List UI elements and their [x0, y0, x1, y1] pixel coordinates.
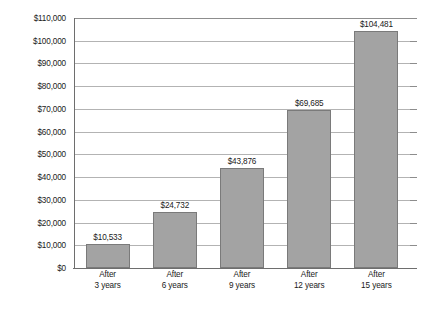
y-axis-tick-mark — [410, 63, 417, 64]
x-axis-line — [73, 268, 417, 269]
plot-area: $10,533$24,732$43,876$69,685$104,481 — [74, 18, 410, 268]
y-tick-label: $10,000 — [0, 241, 66, 250]
bar-value-label: $24,732 — [161, 201, 190, 210]
x-tick-label-line: 15 years — [343, 281, 410, 292]
y-axis-tick-mark — [410, 109, 417, 110]
y-axis-tick-mark — [410, 245, 417, 246]
y-axis-tick-mark — [410, 41, 417, 42]
y-tick-label: $50,000 — [0, 150, 66, 159]
x-tick-label-line: After — [141, 270, 208, 281]
y-tick-label: $80,000 — [0, 82, 66, 91]
x-tick-label-line: 9 years — [208, 281, 275, 292]
y-tick-label: $60,000 — [0, 127, 66, 136]
x-tick-label: After9 years — [208, 270, 275, 291]
x-tick-label-line: 6 years — [141, 281, 208, 292]
y-axis-tick-mark — [410, 132, 417, 133]
y-axis-tick-mark — [410, 223, 417, 224]
y-axis-tick-mark — [410, 154, 417, 155]
x-tick-label-line: 12 years — [276, 281, 343, 292]
bar[interactable] — [153, 212, 197, 268]
bars-layer: $10,533$24,732$43,876$69,685$104,481 — [74, 18, 410, 268]
x-tick-label-line: After — [74, 270, 141, 281]
bar[interactable] — [220, 168, 264, 268]
x-tick-label: After15 years — [343, 270, 410, 291]
bar-value-label: $69,685 — [295, 99, 324, 108]
y-tick-label: $30,000 — [0, 195, 66, 204]
y-tick-label: $110,000 — [0, 14, 66, 23]
bar-group: $69,685 — [276, 18, 343, 268]
bar-group: $104,481 — [343, 18, 410, 268]
y-axis: $110,000$100,000$90,000$80,000$70,000$60… — [0, 0, 70, 319]
bar[interactable] — [354, 31, 398, 268]
bar-group: $24,732 — [141, 18, 208, 268]
x-tick-label: After6 years — [141, 270, 208, 291]
bar-group: $10,533 — [74, 18, 141, 268]
y-tick-label: $20,000 — [0, 218, 66, 227]
x-tick-label: After12 years — [276, 270, 343, 291]
x-tick-label-line: After — [276, 270, 343, 281]
bar-value-label: $104,481 — [360, 20, 393, 29]
y-axis-tick-mark — [410, 177, 417, 178]
bar-group: $43,876 — [208, 18, 275, 268]
bar-chart: $110,000$100,000$90,000$80,000$70,000$60… — [0, 0, 435, 319]
y-tick-label: $90,000 — [0, 59, 66, 68]
y-axis-tick-mark — [410, 86, 417, 87]
bar[interactable] — [287, 110, 331, 268]
y-tick-label: $0 — [0, 264, 66, 273]
x-tick-label-line: After — [343, 270, 410, 281]
y-tick-label: $70,000 — [0, 104, 66, 113]
y-axis-tick-mark — [410, 200, 417, 201]
x-tick-label: After3 years — [74, 270, 141, 291]
bar-value-label: $43,876 — [228, 157, 257, 166]
bar[interactable] — [86, 244, 130, 268]
y-tick-label: $100,000 — [0, 36, 66, 45]
x-tick-label-line: 3 years — [74, 281, 141, 292]
y-axis-tick-mark — [410, 18, 417, 19]
x-tick-label-line: After — [208, 270, 275, 281]
x-axis-categories: After3 yearsAfter6 yearsAfter9 yearsAfte… — [74, 270, 410, 310]
y-tick-label: $40,000 — [0, 173, 66, 182]
bar-value-label: $10,533 — [93, 233, 122, 242]
